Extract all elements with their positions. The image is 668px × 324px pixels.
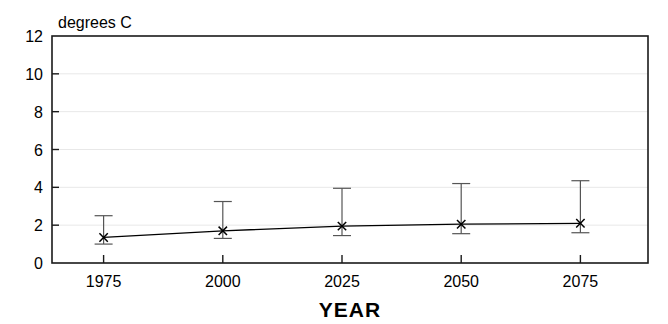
y-axis-title: degrees C [58, 14, 132, 31]
x-tick-label-1975: 1975 [86, 273, 122, 290]
y-tick-label-2: 2 [34, 217, 43, 234]
y-tick-label-4: 4 [34, 179, 43, 196]
y-tick-label-10: 10 [25, 66, 43, 83]
line-chart-with-error-bars: 024681012 19752000202520502075 degrees C… [0, 0, 668, 324]
x-axis-title: YEAR [319, 298, 381, 321]
y-tick-label-6: 6 [34, 142, 43, 159]
y-tick-label-12: 12 [25, 28, 43, 45]
x-tick-label-2075: 2075 [563, 273, 599, 290]
x-tick-label-2050: 2050 [443, 273, 479, 290]
y-tick-label-8: 8 [34, 104, 43, 121]
chart-figure: 024681012 19752000202520502075 degrees C… [0, 0, 668, 324]
y-tick-label-0: 0 [34, 255, 43, 272]
x-tick-label-2025: 2025 [324, 273, 360, 290]
x-tick-label-2000: 2000 [205, 273, 241, 290]
